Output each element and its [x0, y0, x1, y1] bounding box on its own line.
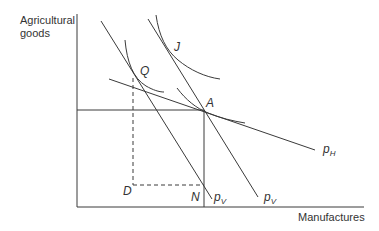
line-label-pv-right-base: p [264, 190, 271, 204]
line-label-pv-left-sub: V [221, 197, 226, 206]
line-label-ph-base: p [323, 142, 330, 156]
point-label-j: J [174, 40, 180, 54]
y-axis-label-line1: Agricultural [20, 14, 75, 27]
line-label-pv-left-base: p [214, 190, 221, 204]
y-axis-label-line2: goods [20, 27, 75, 40]
y-axis-label: Agricultural goods [20, 14, 75, 40]
x-axis-label: Manufactures [298, 211, 365, 224]
line-label-pv-left: pV [214, 190, 226, 206]
line-label-pv-right: pV [264, 190, 276, 206]
line-label-ph-sub: H [330, 149, 336, 158]
line-label-ph: pH [323, 142, 335, 158]
point-label-n: N [191, 190, 200, 204]
point-label-d: D [123, 184, 132, 198]
point-label-a: A [206, 96, 214, 110]
point-label-q: Q [140, 64, 149, 78]
line-label-pv-right-sub: V [271, 197, 276, 206]
price-line-pv-right [148, 19, 258, 197]
